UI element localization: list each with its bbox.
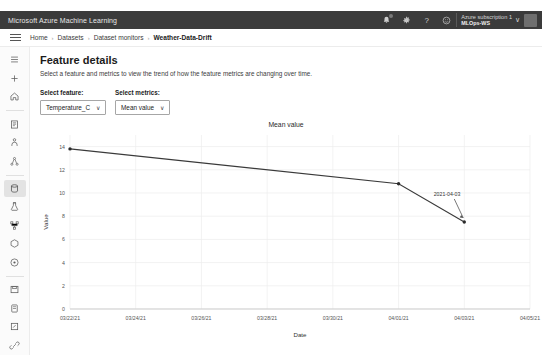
sidebar-datastores-icon[interactable] [4, 300, 26, 317]
select-metrics-group: Select metrics: Mean value ∨ [115, 89, 170, 115]
sidebar-datasets-icon[interactable] [4, 180, 26, 197]
select-feature-label: Select feature: [40, 89, 106, 96]
select-feature-value: Temperature_C [46, 104, 90, 111]
sidebar-home-icon[interactable] [4, 88, 26, 105]
sidebar [0, 47, 30, 355]
svg-text:Value: Value [42, 214, 49, 230]
svg-text:6: 6 [62, 236, 65, 242]
svg-text:03/26/21: 03/26/21 [191, 315, 211, 321]
sidebar-notebooks-icon[interactable] [4, 115, 26, 132]
svg-text:4: 4 [62, 260, 65, 266]
sidebar-compute-icon[interactable] [4, 281, 26, 298]
selector-row: Select feature: Temperature_C ∨ Select m… [40, 89, 542, 115]
svg-text:03/30/21: 03/30/21 [323, 315, 343, 321]
sidebar-divider [6, 276, 24, 277]
svg-text:0: 0 [62, 306, 65, 312]
breadcrumb-separator: › [88, 35, 90, 41]
select-metrics-dropdown[interactable]: Mean value ∨ [115, 100, 170, 115]
sidebar-automl-icon[interactable] [4, 134, 26, 151]
chevron-down-icon[interactable]: ∨ [515, 16, 520, 24]
sidebar-labeling-icon[interactable] [4, 318, 26, 335]
sidebar-models-icon[interactable] [4, 235, 26, 252]
breadcrumb-separator: › [52, 35, 54, 41]
select-feature-dropdown[interactable]: Temperature_C ∨ [40, 100, 106, 115]
svg-text:8: 8 [62, 213, 65, 219]
feedback-icon[interactable] [441, 15, 452, 26]
sidebar-endpoints-icon[interactable] [4, 254, 26, 271]
chevron-down-icon: ∨ [96, 104, 100, 111]
svg-text:03/22/21: 03/22/21 [60, 315, 80, 321]
nav-toggle-icon[interactable] [0, 34, 30, 41]
svg-text:2021-04-03: 2021-04-03 [434, 191, 461, 197]
breadcrumb-item-datasets[interactable]: Datasets [58, 34, 84, 41]
svg-text:03/24/21: 03/24/21 [126, 315, 146, 321]
sidebar-divider [6, 175, 24, 176]
svg-text:03/28/21: 03/28/21 [257, 315, 277, 321]
breadcrumb-item-home[interactable]: Home [30, 34, 48, 41]
sidebar-divider [6, 110, 24, 111]
app-title: Microsoft Azure Machine Learning [8, 17, 117, 24]
svg-text:04/03/21: 04/03/21 [454, 315, 474, 321]
breadcrumb-item-current: Weather-Data-Drift [153, 34, 211, 41]
sidebar-linked-icon[interactable] [4, 337, 26, 354]
chart-container: Mean value 0246810121403/22/2103/24/2103… [30, 121, 542, 355]
svg-text:14: 14 [59, 144, 65, 150]
breadcrumb-bar: Home › Datasets › Dataset monitors › Wea… [0, 29, 542, 47]
sidebar-pipelines-icon[interactable] [4, 217, 26, 234]
sidebar-designer-icon[interactable] [4, 152, 26, 169]
sidebar-menu-icon[interactable] [4, 51, 26, 68]
page-subtitle: Select a feature and metrics to view the… [40, 70, 542, 77]
svg-text:04/01/21: 04/01/21 [388, 315, 408, 321]
notification-badge [389, 14, 393, 18]
select-metrics-label: Select metrics: [115, 89, 170, 96]
select-feature-group: Select feature: Temperature_C ∨ [40, 89, 106, 115]
breadcrumb: Home › Datasets › Dataset monitors › Wea… [30, 34, 212, 41]
mean-value-line-chart[interactable]: 0246810121403/22/2103/24/2103/26/2103/28… [30, 121, 542, 355]
sidebar-new-icon[interactable] [4, 69, 26, 86]
svg-text:12: 12 [59, 167, 65, 173]
app-header: Microsoft Azure Machine Learning ? Azure… [0, 11, 542, 29]
account-switcher[interactable]: Azure subscription 1 MLOps-WS ∨ [457, 14, 524, 27]
header-actions: ? [381, 15, 452, 26]
select-metrics-value: Mean value [121, 104, 154, 111]
breadcrumb-item-dataset-monitors[interactable]: Dataset monitors [94, 34, 144, 41]
svg-text:04/05/21: 04/05/21 [520, 315, 540, 321]
help-icon[interactable]: ? [421, 15, 432, 26]
svg-text:2: 2 [62, 283, 65, 289]
sidebar-experiments-icon[interactable] [4, 198, 26, 215]
settings-gear-icon[interactable] [401, 15, 412, 26]
svg-text:Date: Date [293, 331, 307, 338]
svg-text:10: 10 [59, 190, 65, 196]
account-labels: Azure subscription 1 MLOps-WS [461, 14, 512, 27]
notifications-icon[interactable] [381, 15, 392, 26]
page-title: Feature details [40, 54, 542, 66]
breadcrumb-separator: › [147, 35, 149, 41]
chevron-down-icon: ∨ [160, 104, 164, 111]
workspace-label: MLOps-WS [461, 20, 512, 26]
avatar[interactable] [524, 14, 537, 27]
main-content: Feature details Select a feature and met… [30, 47, 542, 355]
